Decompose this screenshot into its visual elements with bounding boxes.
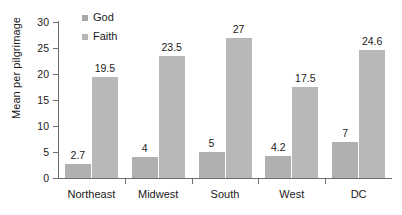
bar-value-label: 24.6 [352, 36, 392, 47]
category-label-midwest: Midwest [125, 188, 192, 200]
y-tick-mark [53, 74, 58, 75]
bar-value-label: 27 [219, 24, 259, 35]
x-tick-mark [258, 179, 259, 184]
y-tick-mark [53, 100, 58, 101]
legend-swatch-icon-god [82, 15, 88, 21]
bar-god-south [199, 152, 225, 178]
y-tick-mark [53, 48, 58, 49]
legend-label-god: God [93, 12, 114, 23]
y-tick-mark [53, 126, 58, 127]
y-tick-label: 25 [9, 43, 49, 54]
y-tick-label: 5 [9, 147, 49, 158]
bar-chart: Mean per pilgrimage 051015202530 2.719.5… [0, 0, 402, 215]
y-tick-label: 10 [9, 121, 49, 132]
bar-faith-west [292, 87, 318, 178]
legend-item-god: God [82, 12, 117, 23]
y-tick-mark [53, 178, 58, 179]
legend: God Faith [82, 12, 117, 50]
x-axis-line [58, 178, 392, 179]
bar-faith-northeast [92, 77, 118, 178]
y-tick-mark [53, 22, 58, 23]
bar-value-label: 23.5 [152, 42, 192, 53]
bar-god-northeast [65, 164, 91, 178]
bar-faith-midwest [159, 56, 185, 178]
x-tick-mark [325, 179, 326, 184]
bar-value-label: 17.5 [285, 73, 325, 84]
legend-label-faith: Faith [93, 31, 117, 42]
bar-faith-dc [359, 50, 385, 178]
legend-item-faith: Faith [82, 31, 117, 42]
x-tick-mark [192, 179, 193, 184]
y-tick-label: 0 [9, 173, 49, 184]
bar-god-west [265, 156, 291, 178]
category-label-northeast: Northeast [58, 188, 125, 200]
y-tick-label: 30 [9, 17, 49, 28]
category-label-south: South [192, 188, 259, 200]
y-tick-label: 20 [9, 69, 49, 80]
category-label-dc: DC [325, 188, 392, 200]
category-label-west: West [258, 188, 325, 200]
y-tick-label: 15 [9, 95, 49, 106]
bar-faith-south [226, 38, 252, 178]
bar-value-label: 19.5 [85, 63, 125, 74]
x-tick-mark [125, 179, 126, 184]
legend-swatch-icon-faith [82, 34, 88, 40]
bar-god-midwest [132, 157, 158, 178]
bar-god-dc [332, 142, 358, 178]
